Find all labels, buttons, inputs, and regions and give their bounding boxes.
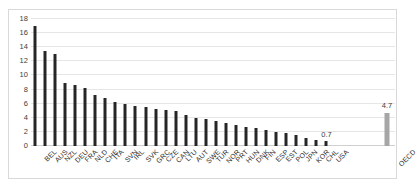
bar-group [231, 19, 241, 146]
bar-svn [114, 102, 117, 146]
bar-hun [234, 125, 237, 146]
bar-aus [44, 51, 47, 146]
bar-bel [34, 26, 37, 146]
bar-nzl [54, 54, 57, 146]
bar-group [151, 19, 161, 146]
bar-ltu [174, 111, 177, 146]
bar-nor [214, 121, 217, 146]
bar-group [261, 19, 271, 146]
bar-group [301, 19, 311, 146]
y-axis-tick-label: 14 [8, 43, 28, 51]
bar-group [271, 19, 281, 146]
bar-group: 0.7 [321, 19, 331, 146]
y-axis-tick-label: 2 [8, 128, 28, 136]
bar-group [241, 19, 251, 146]
y-axis-tick-label: 18 [8, 15, 28, 23]
bar-group [251, 19, 261, 146]
bar-pol [285, 133, 288, 146]
bars-group: 0.74.7 [31, 19, 395, 146]
bar-esp [265, 130, 268, 146]
bar-group [120, 19, 130, 146]
bar-irl [124, 104, 127, 146]
bar-group [80, 19, 90, 146]
bar-prt [224, 123, 227, 146]
y-axis-tick-label: 6 [8, 100, 28, 108]
bar-swe [194, 118, 197, 146]
bar-group [100, 19, 110, 146]
bar-group [211, 19, 221, 146]
bar-group: 4.7 [382, 19, 392, 146]
bar-group [90, 19, 100, 146]
y-axis-tick-label: 8 [8, 86, 28, 94]
y-axis-tick-label: 16 [8, 29, 28, 37]
y-axis-tick-label: 0 [8, 142, 28, 150]
bar-group [291, 19, 301, 146]
bar-group [191, 19, 201, 146]
bar-fin [255, 128, 258, 146]
y-axis-tick-label: 12 [8, 58, 28, 66]
bar-group [70, 19, 80, 146]
bar-group [161, 19, 171, 146]
bar-group [171, 19, 181, 146]
bar-cze [154, 109, 157, 146]
x-axis-tick-label-oecd: OECD [397, 148, 417, 168]
bar-deu [64, 83, 67, 147]
bar-dnk [245, 127, 248, 146]
bar-value-label-usa: 0.7 [321, 131, 331, 139]
bar-group [110, 19, 120, 146]
bar-fra [74, 85, 77, 146]
bar-value-label-oecd: 4.7 [382, 102, 392, 110]
bar-group [181, 19, 191, 146]
bar-group [281, 19, 291, 146]
plot-area: 0.74.7 [31, 19, 395, 146]
bar-tur [204, 119, 207, 146]
bar-svk [134, 106, 137, 146]
bar-group [50, 19, 60, 146]
y-axis: 024681012141618 [8, 19, 28, 146]
bar-nld [84, 88, 87, 146]
bar-can [164, 110, 167, 146]
bar-group [311, 19, 321, 146]
bar-group [221, 19, 231, 146]
bar-aut [184, 115, 187, 146]
bar-group [30, 19, 40, 146]
bar-oecd [384, 113, 389, 146]
bar-group [60, 19, 70, 146]
bar-group [141, 19, 151, 146]
bar-che [94, 95, 97, 147]
bar-est [275, 132, 278, 146]
bar-jpn [295, 135, 298, 146]
x-axis: BELAUSNZLDEUFRANLDCHEITASVNIRLSVKGRCCZEC… [31, 146, 395, 192]
bar-group [130, 19, 140, 146]
bar-kor [305, 138, 308, 146]
y-axis-tick-label: 4 [8, 114, 28, 122]
y-axis-tick-label: 10 [8, 72, 28, 80]
bar-grc [144, 107, 147, 146]
bar-ita [104, 98, 107, 146]
bar-group [201, 19, 211, 146]
bar-group [40, 19, 50, 146]
